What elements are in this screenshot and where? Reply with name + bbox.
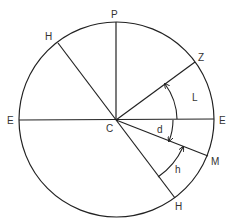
angle-L-arc	[165, 84, 177, 119]
label-Z: Z	[198, 52, 204, 63]
label-P: P	[111, 9, 118, 20]
zenith-line	[116, 62, 195, 120]
label-E-right: E	[219, 115, 226, 126]
label-h: h	[175, 164, 181, 175]
label-M: M	[211, 156, 219, 167]
label-L: L	[192, 92, 198, 103]
label-C: C	[106, 123, 113, 134]
label-H-lower: H	[175, 201, 182, 212]
celestial-diagram: P H Z L E E C d M h H	[0, 0, 235, 223]
label-d: d	[157, 124, 163, 135]
label-E-left: E	[7, 115, 14, 126]
label-H-upper: H	[45, 31, 52, 42]
angle-d-arc	[169, 120, 173, 141]
